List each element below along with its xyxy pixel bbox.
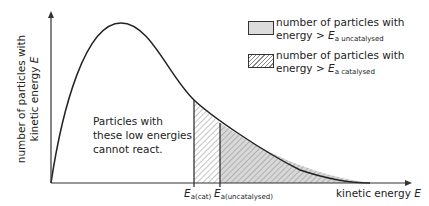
- x-axis-label: kinetic energy E: [336, 187, 421, 200]
- low-energy-annotation: Particles with these low energies cannot…: [93, 114, 192, 156]
- x-axis-arrow-icon: [405, 180, 412, 186]
- y-axis-arrow-icon: [48, 11, 54, 18]
- legend-swatch-hatched: [248, 54, 274, 68]
- uncatalysed-region: [220, 123, 370, 183]
- legend-swatch-grey: [248, 21, 274, 35]
- legend-item-catalysed: number of particles with energy > Ea cat…: [276, 49, 404, 79]
- legend-item-uncatalysed: number of particles with energy > Ea unc…: [276, 16, 404, 46]
- catalysed-region: [194, 100, 220, 183]
- ea-cat-label: Ea(cat): [184, 187, 211, 204]
- y-axis-label: number of particles with kinetic energy …: [15, 19, 41, 179]
- ea-uncat-label: Ea(uncatalysed): [214, 187, 273, 204]
